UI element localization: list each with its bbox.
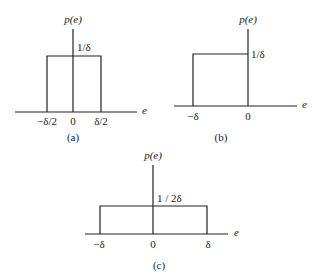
panel-b: p(e) 1/δ e −δ 0 (b)	[174, 13, 307, 144]
panel-c: p(e) 1 / 2δ e −δ 0 δ (c)	[85, 149, 239, 272]
panel-a-height-label: 1/δ	[77, 41, 91, 53]
panel-a: p(e) 1/δ e −δ/2 0 δ/2 (a)	[15, 13, 147, 144]
panel-b-tick-zero: 0	[245, 110, 251, 122]
panel-a-tick-neg: −δ/2	[37, 115, 57, 127]
panel-c-y-label: p(e)	[143, 149, 162, 162]
panel-a-tick-pos: δ/2	[94, 115, 108, 127]
panel-b-x-label: e	[302, 98, 307, 110]
panel-a-density-rect	[47, 56, 101, 112]
panel-c-tick-neg: −δ	[93, 238, 104, 250]
panel-c-x-label: e	[234, 226, 239, 238]
panel-c-tick-pos: δ	[205, 238, 210, 250]
panel-b-caption: (b)	[215, 131, 228, 144]
panel-a-tick-zero: 0	[70, 115, 76, 127]
panel-a-x-label: e	[142, 104, 147, 116]
panel-b-density-rect	[193, 54, 248, 106]
panel-b-y-label: p(e)	[238, 13, 257, 26]
panel-b-tick-neg: −δ	[187, 110, 198, 122]
panel-c-tick-zero: 0	[150, 238, 156, 250]
panel-a-caption: (a)	[67, 131, 80, 144]
quantization-error-pdf-diagram: p(e) 1/δ e −δ/2 0 δ/2 (a) p(e) 1/δ e −δ …	[0, 0, 319, 280]
panel-b-height-label: 1/δ	[251, 48, 265, 60]
panel-c-caption: (c)	[153, 259, 166, 272]
panel-a-y-label: p(e)	[63, 13, 82, 26]
panel-c-height-label: 1 / 2δ	[157, 192, 182, 204]
